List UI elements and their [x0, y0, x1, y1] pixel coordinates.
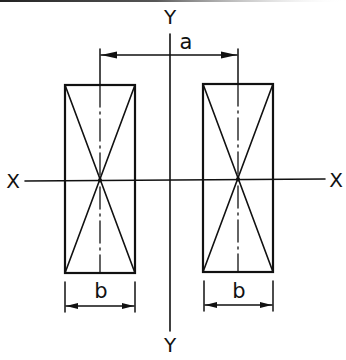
b-left-arrow-right-icon — [122, 303, 134, 309]
b-right-arrow-right-icon — [260, 302, 272, 308]
cross-section-diagram: Y Y X X a b b — [0, 0, 346, 360]
x-axis-left-label: X — [6, 169, 20, 193]
b-right-arrow-left-icon — [205, 302, 217, 308]
dimension-b-left-label: b — [94, 279, 107, 303]
a-arrow-left-icon — [101, 52, 117, 59]
top-edge — [0, 0, 346, 2]
dimension-a-label: a — [180, 30, 193, 54]
dimension-b-right-label: b — [232, 279, 245, 303]
y-axis-top-label: Y — [163, 5, 177, 29]
x-axis-right-label: X — [329, 168, 343, 192]
x-axis — [25, 179, 325, 181]
a-arrow-right-icon — [221, 52, 237, 59]
b-left-arrow-left-icon — [66, 303, 78, 309]
y-axis-bottom-label: Y — [163, 333, 177, 357]
